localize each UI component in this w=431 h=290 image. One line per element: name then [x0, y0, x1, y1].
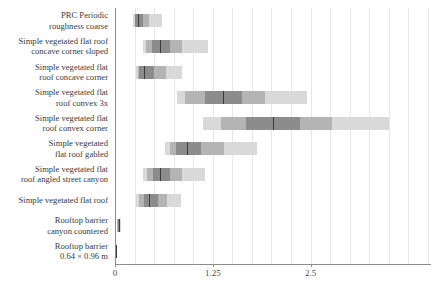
category-label-line: 0.64 × 0.96 m [0, 251, 108, 262]
interval-row [115, 40, 431, 53]
category-label-line: Simple vegetated flat [0, 62, 108, 73]
category-label: PRC Periodicroughness coarse [0, 10, 108, 31]
category-axis-labels: PRC Periodicroughness coarseSimple veget… [0, 8, 112, 264]
category-label-line: roof angled street canyon [0, 174, 108, 185]
interval-row [115, 66, 431, 79]
x-tick-label: 0 [113, 268, 118, 278]
category-label-line: Simple vegetated flat roof [0, 36, 108, 47]
median-line [273, 117, 274, 130]
median-line [160, 168, 161, 181]
y-axis-line [115, 8, 116, 264]
category-label: Simple vegetated flat roofconcave corner… [0, 36, 108, 57]
category-label-line: Simple vegetated flat [0, 113, 108, 124]
category-label-line: roof convex corner [0, 123, 108, 134]
interval-row [115, 194, 431, 207]
interval-row [115, 168, 431, 181]
interval-band-inner [139, 66, 154, 79]
x-axis-line [115, 264, 431, 265]
median-line [138, 14, 139, 27]
interval-band-inner [152, 40, 170, 53]
category-label: Simple vegetated flatroof convex corner [0, 113, 108, 134]
category-label-line: PRC Periodic [0, 10, 108, 21]
median-line [144, 66, 145, 79]
median-line [187, 142, 188, 155]
category-label-line: Rooftop barrier [0, 215, 108, 226]
interval-row [115, 142, 431, 155]
category-label: Simple vegetated flat roof [0, 195, 108, 206]
median-line [160, 40, 161, 53]
category-label: Simple vegetated flatroof angled street … [0, 164, 108, 185]
interval-row [115, 91, 431, 104]
category-label-line: roof concave corner [0, 72, 108, 83]
category-label: Simple vegetated flatroof concave corner [0, 62, 108, 83]
category-label-line: flat roof gabled [0, 149, 108, 160]
x-tick [213, 264, 214, 267]
category-label-line: Simple vegetated [0, 138, 108, 149]
category-label-line: Simple vegetated flat roof [0, 195, 108, 206]
interval-row [115, 117, 431, 130]
interval-row [115, 219, 431, 232]
median-line [149, 194, 150, 207]
category-label-line: canyon countered [0, 226, 108, 237]
category-label: Simple vegetated flatroof convex 3x [0, 87, 108, 108]
category-label-line: Simple vegetated flat [0, 87, 108, 98]
category-label-line: Simple vegetated flat [0, 164, 108, 175]
interval-band-inner [135, 14, 143, 27]
category-label: Rooftop barrier0.64 × 0.96 m [0, 241, 108, 262]
category-label: Rooftop barriercanyon countered [0, 215, 108, 236]
category-label-line: roof convex 3x [0, 98, 108, 109]
category-label: Simple vegetatedflat roof gabled [0, 138, 108, 159]
median-line [119, 219, 120, 232]
category-label-line: roughness coarse [0, 21, 108, 32]
x-tick [115, 264, 116, 267]
interval-band-inner [176, 142, 201, 155]
plot-area [115, 8, 431, 264]
interval-row [115, 14, 431, 27]
category-label-line: concave corner sloped [0, 46, 108, 57]
x-tick-label: 2.5 [305, 268, 316, 278]
interval-chart: 01.252.5 PRC Periodicroughness coarseSim… [0, 0, 431, 290]
x-tick [311, 264, 312, 267]
median-line [116, 245, 117, 258]
category-label-line: Rooftop barrier [0, 241, 108, 252]
interval-row [115, 245, 431, 258]
median-line [223, 91, 224, 104]
x-tick-label: 1.25 [205, 268, 221, 278]
interval-band-inner [144, 194, 158, 207]
